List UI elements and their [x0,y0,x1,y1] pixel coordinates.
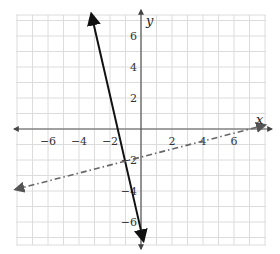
x-tick-label: −6 [40,135,56,148]
x-tick-label: −4 [71,135,87,148]
y-axis-label: y [145,13,154,28]
y-tick-label: 6 [130,30,137,43]
x-axis-label: x [256,112,264,127]
y-tick-label: −4 [121,185,137,198]
y-tick-label: 4 [130,61,137,74]
coordinate-plane: −6−4−2246642−2−4−6 y x [0,0,280,254]
x-tick-label: −2 [102,135,118,148]
x-tick-label: 6 [231,135,238,148]
axes [14,10,272,249]
x-tick-label: 2 [169,135,176,148]
y-tick-label: 2 [130,92,137,105]
y-tick-label: −6 [121,216,137,229]
